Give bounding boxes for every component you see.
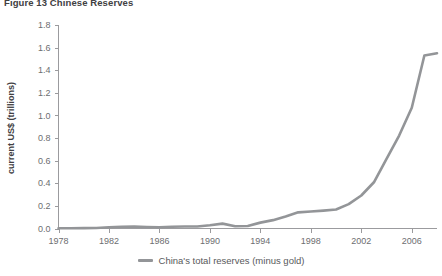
y-tick-label: 1.4 <box>38 65 51 75</box>
y-tick-group: 0.00.20.40.60.81.01.21.41.61.8 <box>38 20 59 234</box>
y-tick-label: 0.4 <box>38 178 51 188</box>
x-tick-label: 2006 <box>402 236 422 246</box>
chart-legend: China's total reserves (minus gold) <box>0 255 442 266</box>
y-axis: 0.00.20.40.60.81.01.21.41.61.8 <box>38 20 59 234</box>
legend-swatch <box>138 259 153 262</box>
y-tick-label: 0.2 <box>38 201 51 211</box>
x-axis: 19781982198619901994199820022006 <box>48 229 437 246</box>
x-tick-label: 1982 <box>99 236 119 246</box>
y-tick-label: 1.2 <box>38 88 51 98</box>
x-tick-label: 1986 <box>149 236 169 246</box>
series-line <box>59 53 438 228</box>
y-tick-label: 1.0 <box>38 111 51 121</box>
figure-container: Figure 13 Chinese Reserves current US$ (… <box>0 0 442 276</box>
y-tick-label: 0.6 <box>38 156 51 166</box>
x-tick-label: 1998 <box>301 236 321 246</box>
x-tick-label: 2002 <box>351 236 371 246</box>
y-axis-label-text: current US$ (trillions) <box>6 82 16 174</box>
x-tick-label: 1978 <box>48 236 68 246</box>
y-axis-label: current US$ (trillions) <box>6 82 16 174</box>
x-tick-label: 1990 <box>200 236 220 246</box>
x-tick-label: 1994 <box>250 236 270 246</box>
y-tick-label: 1.6 <box>38 43 51 53</box>
data-series-group <box>59 53 438 228</box>
legend-label: China's total reserves (minus gold) <box>159 255 305 266</box>
chart-plot: current US$ (trillions) 0.00.20.40.60.81… <box>0 0 442 276</box>
y-tick-label: 0.0 <box>38 224 51 234</box>
y-tick-label: 0.8 <box>38 133 51 143</box>
y-tick-label: 1.8 <box>38 20 51 30</box>
x-tick-group: 19781982198619901994199820022006 <box>48 229 421 246</box>
